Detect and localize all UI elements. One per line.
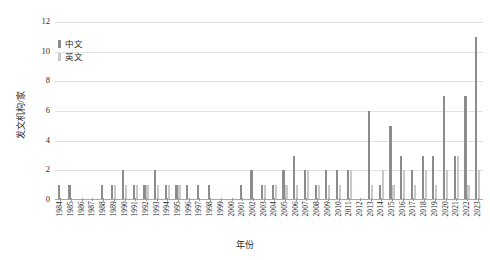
bar: [422, 156, 424, 201]
x-tick-label: 2010: [335, 201, 342, 217]
bar-group: [237, 22, 248, 200]
x-tick-label: 2002: [249, 201, 256, 217]
x-tick-label: 1998: [206, 201, 213, 217]
bar-group: [141, 22, 152, 200]
y-tick-label: 6: [28, 106, 50, 115]
x-axis-title: 年份: [0, 238, 490, 251]
bar: [478, 170, 480, 200]
x-tick-label: 2021: [452, 201, 459, 217]
legend-item: 英文: [58, 51, 83, 63]
bar-group: [301, 22, 312, 200]
bar-group: [119, 22, 130, 200]
x-axis-ticks: 1984198519861987198819891990199119921993…: [55, 201, 483, 237]
bar-group: [258, 22, 269, 200]
x-tick-label: 2005: [281, 201, 288, 217]
y-tick-label: 12: [28, 17, 50, 26]
bar-group: [226, 22, 237, 200]
bar: [403, 170, 405, 200]
bar-group: [419, 22, 430, 200]
x-tick-label: 1996: [185, 201, 192, 217]
x-tick-label: 2001: [238, 201, 245, 217]
bar-group: [130, 22, 141, 200]
bar-group: [205, 22, 216, 200]
bar-group: [216, 22, 227, 200]
x-tick-label: 2022: [463, 201, 470, 217]
x-tick-label: 2009: [324, 201, 331, 217]
x-tick-label: 2004: [270, 201, 277, 217]
x-tick-label: 1999: [217, 201, 224, 217]
legend-swatch: [58, 40, 61, 48]
bar-group: [376, 22, 387, 200]
x-tick-label: 2016: [399, 201, 406, 217]
x-tick-label: 2017: [409, 201, 416, 217]
bar: [336, 170, 338, 200]
bar: [446, 170, 448, 200]
x-tick-label: 1997: [195, 201, 202, 217]
x-tick-label: 2008: [313, 201, 320, 217]
legend-item: 中文: [58, 38, 83, 50]
x-tick-label: 1990: [121, 201, 128, 217]
bar: [432, 156, 434, 201]
x-tick-label: 2006: [292, 201, 299, 217]
x-tick-label: 2012: [356, 201, 363, 217]
bar: [350, 170, 352, 200]
bar-group: [397, 22, 408, 200]
bar-chart: 发文机构/家 024681012 19841985198619871988198…: [0, 0, 490, 260]
bar: [293, 156, 295, 201]
bar-group: [248, 22, 259, 200]
x-tick-label: 2019: [431, 201, 438, 217]
bar: [382, 170, 384, 200]
x-tick-label: 2003: [260, 201, 267, 217]
bar-group: [98, 22, 109, 200]
bar-group: [173, 22, 184, 200]
bar: [368, 111, 370, 200]
bar: [425, 170, 427, 200]
bar: [325, 170, 327, 200]
x-tick-label: 1984: [56, 201, 63, 217]
bar-group: [194, 22, 205, 200]
bar: [282, 170, 284, 200]
y-axis-ticks: 024681012: [26, 22, 50, 200]
bar: [389, 126, 391, 200]
bar-group: [387, 22, 398, 200]
x-tick-label: 1989: [110, 201, 117, 217]
x-tick-label: 1994: [163, 201, 170, 217]
bar-group: [365, 22, 376, 200]
bar: [457, 156, 459, 201]
bar-group: [269, 22, 280, 200]
bar: [304, 170, 306, 200]
legend-label: 中文: [65, 40, 83, 49]
x-tick-label: 2013: [367, 201, 374, 217]
x-tick-label: 2011: [345, 201, 352, 216]
bar-group: [280, 22, 291, 200]
legend-swatch: [58, 53, 61, 61]
bar: [250, 170, 252, 200]
bars-layer: [55, 22, 483, 200]
y-tick-label: 0: [28, 195, 50, 204]
x-tick-label: 2023: [474, 201, 481, 217]
x-tick-label: 1991: [131, 201, 138, 217]
bar: [400, 156, 402, 201]
bar: [347, 170, 349, 200]
x-tick-label: 2014: [377, 201, 384, 217]
x-tick-label: 1985: [67, 201, 74, 217]
x-tick-label: 2007: [302, 201, 309, 217]
bar-group: [323, 22, 334, 200]
bar-group: [451, 22, 462, 200]
x-tick-label: 1986: [78, 201, 85, 217]
bar-group: [408, 22, 419, 200]
y-tick-label: 8: [28, 76, 50, 85]
bar-group: [333, 22, 344, 200]
bar-group: [312, 22, 323, 200]
bar-group: [87, 22, 98, 200]
x-tick-label: 1993: [153, 201, 160, 217]
bar-group: [344, 22, 355, 200]
bar-group: [183, 22, 194, 200]
x-tick-label: 2020: [442, 201, 449, 217]
bar: [443, 96, 445, 200]
x-tick-label: 1995: [174, 201, 181, 217]
x-tick-label: 2015: [388, 201, 395, 217]
x-tick-label: 1988: [99, 201, 106, 217]
bar-group: [472, 22, 483, 200]
bar: [154, 170, 156, 200]
